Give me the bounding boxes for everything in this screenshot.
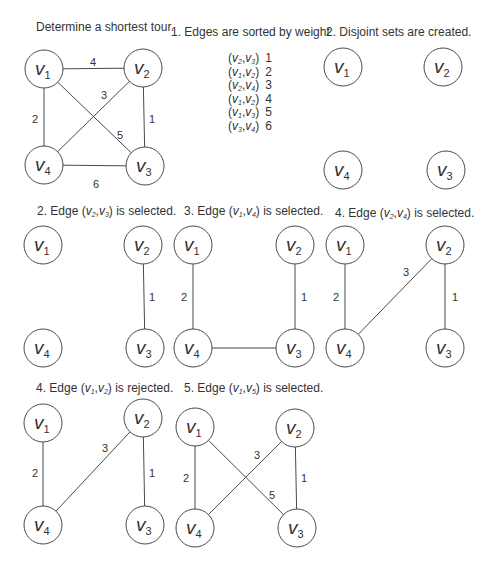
node-v2: v2	[124, 399, 162, 437]
sorted-edge-weight: 2	[265, 66, 272, 80]
edge-weight-label: 2	[333, 291, 339, 303]
node-v4: v4	[24, 329, 62, 367]
panel-step-edge-v1-v5: 2315v1v2v3v4	[176, 408, 316, 547]
edge-weight-label: 2	[183, 472, 189, 484]
sorted-edge-row: (v3,v4)6	[228, 120, 272, 134]
edge-weight-label: 1	[301, 472, 307, 484]
panel-disjoint-sets: v1v2v3v4	[324, 48, 465, 189]
sorted-edge-weight: 1	[265, 52, 272, 66]
node-subscript: 2	[444, 67, 450, 79]
node-v1: v1	[174, 226, 212, 264]
sorted-edge-weight: 3	[265, 79, 272, 93]
edge-weight-label: 1	[149, 113, 155, 125]
node-subscript: 4	[194, 348, 200, 360]
node-v3: v3	[126, 506, 164, 544]
sorted-edge-weight: 5	[265, 106, 272, 120]
panel-initial-graph: 421356v1v2v3v4	[25, 49, 164, 190]
edge-weight-label: 1	[301, 291, 307, 303]
edge-weight-label: 3	[101, 89, 107, 101]
node-v3: v3	[126, 147, 164, 185]
edge-1-3	[44, 69, 145, 166]
edge-weight-label: 3	[403, 266, 409, 278]
node-subscript: 3	[446, 348, 452, 360]
sorted-edge-row: (v1,v2)4	[228, 93, 272, 107]
node-subscript: 2	[144, 418, 150, 430]
node-v2: v2	[276, 226, 314, 264]
sorted-edge-row: (v1,v2)2	[228, 66, 272, 80]
sorted-edges-list: (v2,v3)1(v1,v2)2(v2,v4)3(v1,v2)4(v1,v3)5…	[228, 52, 272, 133]
node-v1: v1	[176, 408, 214, 446]
sorted-edges-heading: 1. Edges are sorted by weight	[171, 25, 330, 39]
edge-weight-label: 1	[149, 467, 155, 479]
panel-step-edge-v1-v4: 21v1v2v3v4	[174, 226, 314, 367]
panel-title-step-edge-v2-v3: 2. Edge (v2,v3) is selected.	[37, 204, 176, 218]
sorted-edge-weight: 6	[265, 120, 272, 134]
edge-weight-label: 3	[254, 449, 260, 461]
panel-step-edge-v2-v3: 1v1v2v3v4	[24, 226, 164, 367]
node-subscript: 1	[196, 427, 202, 439]
sorted-edge-weight: 4	[265, 93, 272, 107]
sorted-edge-row: (v1,v3)5	[228, 106, 272, 120]
panel-title-initial-graph: Determine a shortest tour.	[36, 20, 174, 34]
node-v1: v1	[324, 48, 362, 86]
node-subscript: 4	[45, 165, 51, 177]
edge-weight-label: 2	[32, 467, 38, 479]
node-v2: v2	[124, 49, 162, 87]
node-subscript: 1	[45, 69, 51, 81]
panel-step-edge-v2-v4: 231v1v2v3v4	[326, 226, 464, 367]
node-v3: v3	[276, 329, 314, 367]
node-subscript: 1	[194, 245, 200, 257]
edge-weight-label: 5	[269, 489, 275, 501]
panel-title-disjoint-sets: 2. Disjoint sets are created.	[326, 25, 471, 39]
edge-weight-label: 4	[90, 56, 96, 68]
node-v4: v4	[25, 146, 63, 184]
kruskal-diagram: 421356v1v2v3v4v1v2v3v41v1v2v3v421v1v2v3v…	[0, 0, 491, 568]
node-subscript: 4	[44, 525, 50, 537]
node-subscript: 2	[446, 245, 452, 257]
edge-weight-label: 5	[117, 129, 123, 141]
node-v4: v4	[326, 329, 364, 367]
node-v4: v4	[24, 506, 62, 544]
edge-weight-label: 1	[149, 291, 155, 303]
node-v3: v3	[126, 329, 164, 367]
edge-weight-label: 2	[181, 291, 187, 303]
node-v1: v1	[25, 50, 63, 88]
node-subscript: 1	[44, 423, 50, 435]
node-subscript: 4	[344, 170, 350, 182]
node-v1: v1	[24, 226, 62, 264]
node-subscript: 2	[144, 245, 150, 257]
edge-2-4	[195, 428, 295, 528]
node-subscript: 2	[144, 68, 150, 80]
panel-title-step-edge-v1-v5: 5. Edge (v1,v5) is selected.	[184, 381, 323, 395]
node-subscript: 4	[346, 348, 352, 360]
node-subscript: 3	[447, 170, 453, 182]
edge-weight-label: 6	[93, 178, 99, 190]
node-subscript: 4	[196, 528, 202, 540]
node-v4: v4	[324, 151, 362, 189]
node-subscript: 2	[296, 245, 302, 257]
edge-weight-label: 1	[452, 291, 458, 303]
node-v4: v4	[176, 509, 214, 547]
node-v1: v1	[24, 404, 62, 442]
node-v2: v2	[426, 226, 464, 264]
node-v2: v2	[424, 48, 462, 86]
panel-title-step-edge-v1-v2-rejected: 4. Edge (v1,v2) is rejected.	[36, 381, 173, 395]
node-subscript: 1	[344, 67, 350, 79]
node-subscript: 3	[296, 348, 302, 360]
node-v3: v3	[278, 509, 316, 547]
node-v3: v3	[426, 329, 464, 367]
node-subscript: 3	[146, 525, 152, 537]
edge-2-4	[345, 245, 445, 348]
node-subscript: 2	[296, 428, 302, 440]
node-subscript: 1	[44, 245, 50, 257]
node-v1: v1	[326, 226, 364, 264]
node-subscript: 3	[146, 166, 152, 178]
panel-title-step-edge-v2-v4: 4. Edge (v2,v4) is selected.	[335, 206, 474, 220]
sorted-edge-row: (v2,v4)3	[228, 79, 272, 93]
node-subscript: 1	[346, 245, 352, 257]
node-v2: v2	[276, 409, 314, 447]
panel-title-step-edge-v1-v4: 3. Edge (v1,v4) is selected.	[184, 204, 323, 218]
node-subscript: 3	[146, 348, 152, 360]
node-v4: v4	[174, 329, 212, 367]
edge-weight-label: 2	[32, 113, 38, 125]
